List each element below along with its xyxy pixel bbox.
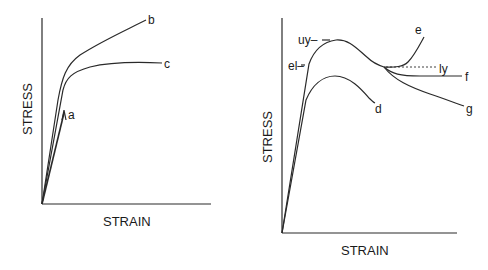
left-curve-a-label: a	[68, 108, 75, 122]
left-x-axis-label: STRAIN	[103, 214, 151, 229]
right-y-axis-label: STRESS	[260, 111, 275, 163]
right-curve-e-label: e	[415, 23, 422, 37]
curve-e	[384, 37, 424, 67]
right-curve-g-label: g	[466, 102, 473, 116]
right-chart	[282, 18, 464, 233]
right-curve-f-label: f	[465, 70, 469, 84]
left-curve-c-label: c	[164, 57, 170, 71]
curve-b	[42, 20, 146, 204]
upper-yield-label: uy–	[298, 33, 318, 47]
left-y-axis-label: STRESS	[20, 83, 35, 135]
lower-yield-label: ly	[439, 62, 448, 76]
stress-strain-diagrams: a b c STRESS STRAIN uy– el– ly d e f g S…	[0, 0, 488, 270]
curve-a	[42, 113, 64, 204]
elastic-limit-label: el–	[288, 59, 304, 73]
curve-d	[282, 76, 375, 233]
right-curve-d-label: d	[375, 102, 382, 116]
curve-g	[384, 67, 464, 106]
curve-c	[42, 62, 162, 204]
left-curve-b-label: b	[148, 13, 155, 27]
right-x-axis-label: STRAIN	[341, 243, 389, 258]
curve-f	[384, 67, 462, 76]
